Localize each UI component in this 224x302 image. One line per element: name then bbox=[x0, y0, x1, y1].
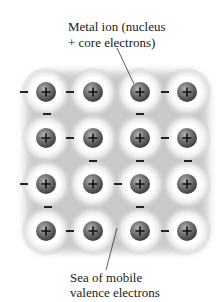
electron-minus-icon bbox=[89, 160, 97, 162]
metal-ion bbox=[130, 128, 150, 148]
metal-ion bbox=[130, 221, 150, 241]
metal-ion-label-line1: Metal ion (nucleus bbox=[68, 19, 165, 34]
electron-minus-icon bbox=[20, 183, 28, 185]
metal-ion bbox=[177, 174, 197, 194]
electron-minus-icon bbox=[66, 137, 74, 139]
electron-sea-label-line1: Sea of mobile bbox=[70, 270, 142, 285]
electron-minus-icon bbox=[20, 91, 28, 93]
metal-ion bbox=[83, 174, 103, 194]
electron-sea-label-line2: valence electrons bbox=[70, 285, 160, 300]
metal-ion bbox=[83, 82, 103, 102]
metal-ion-label-line2: + core electrons) bbox=[68, 35, 155, 50]
metal-ion bbox=[36, 128, 56, 148]
electron-minus-icon bbox=[161, 91, 169, 93]
metal-ion bbox=[36, 221, 56, 241]
electron-minus-icon bbox=[161, 137, 169, 139]
electron-minus-icon bbox=[136, 206, 144, 208]
metal-ion bbox=[177, 128, 197, 148]
electron-minus-icon bbox=[161, 230, 169, 232]
electron-minus-icon bbox=[43, 113, 51, 115]
electron-minus-icon bbox=[44, 206, 52, 208]
metal-ion bbox=[130, 174, 150, 194]
metal-ion bbox=[130, 82, 150, 102]
electron-minus-icon bbox=[66, 230, 74, 232]
metal-ion bbox=[36, 82, 56, 102]
metal-ion bbox=[36, 174, 56, 194]
electron-minus-icon bbox=[66, 91, 74, 93]
metal-ion bbox=[83, 221, 103, 241]
electron-minus-icon bbox=[114, 183, 122, 185]
electron-minus-icon bbox=[184, 160, 192, 162]
electron-minus-icon bbox=[136, 160, 144, 162]
metal-ion bbox=[177, 221, 197, 241]
electron-minus-icon bbox=[136, 113, 144, 115]
metal-ion bbox=[83, 128, 103, 148]
metal-ion bbox=[177, 82, 197, 102]
